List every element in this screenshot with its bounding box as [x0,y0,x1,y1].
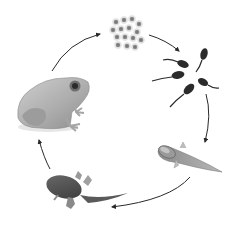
stage-adult-frog [18,78,90,133]
tadpole-3 [152,70,185,81]
arrow-froglet-to-frog [39,140,50,169]
arrow-frog-to-eggs [52,34,100,71]
stage-tadpole-with-legs [157,142,222,172]
tadpole-5 [170,82,196,107]
tadpole-2 [196,47,209,72]
arrow-eggs-to-tadpoles [149,35,179,51]
stage-eggs [109,15,145,51]
arrow-legged-to-froglet [112,177,190,207]
stage-tadpoles [152,47,219,107]
arrow-tadpoles-to-legged [205,94,209,142]
tadpole-4 [196,76,219,88]
stage-froglet [44,171,128,209]
frog-life-cycle-diagram [0,0,239,227]
tadpole-1 [163,59,190,70]
